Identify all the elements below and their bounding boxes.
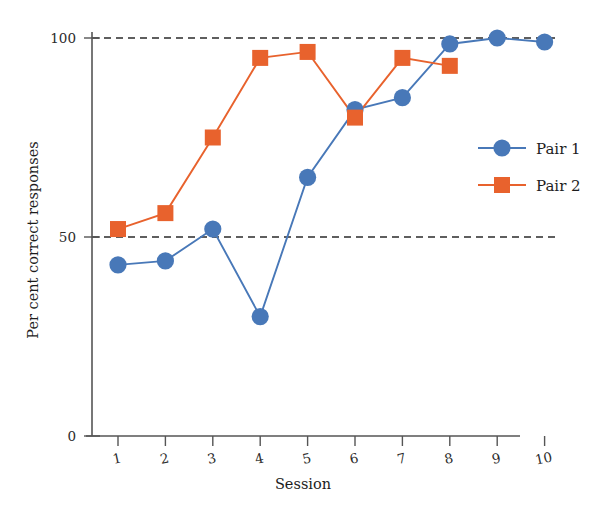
marker-pair-1-session-4 [252,308,269,325]
legend-entry-pair-1[interactable]: Pair 1 [478,139,581,157]
x-tick-label-4: 4 [253,449,265,466]
x-tick-label-2: 2 [158,449,170,466]
y-axis-title: Per cent correct responses [25,141,41,338]
series-markers [109,29,553,325]
marker-pair-1-session-1 [109,256,126,273]
y-tick-label-50: 50 [59,229,76,245]
legend-entry-pair-2[interactable]: Pair 2 [478,177,581,195]
x-tick-label-3: 3 [206,449,218,466]
legend-marker-pair-2 [494,177,510,193]
x-tick-label-6: 6 [348,449,360,466]
legend-label-pair-2: Pair 2 [536,177,581,195]
marker-pair-2-session-7 [394,50,410,66]
marker-pair-2-session-5 [300,44,316,60]
marker-pair-1-session-8 [441,35,458,52]
line-chart: 050100 12345678910 Session Per cent corr… [0,0,604,515]
x-tick-label-8: 8 [443,449,455,466]
marker-pair-2-session-6 [347,110,363,126]
x-axis-title: Session [275,476,331,492]
series-lines [118,38,545,317]
series-line-pair-1 [118,38,545,317]
x-axis-ticks: 12345678910 [111,436,554,468]
marker-pair-1-session-10 [536,33,553,50]
x-tick-label-1: 1 [111,449,123,466]
chart-page: 050100 12345678910 Session Per cent corr… [0,0,604,515]
marker-pair-1-session-3 [204,220,221,237]
x-tick-label-5: 5 [301,449,313,466]
y-tick-label-100: 100 [50,30,76,46]
marker-pair-1-session-7 [394,89,411,106]
legend: Pair 1Pair 2 [478,139,581,194]
x-tick-label-7: 7 [395,449,407,466]
marker-pair-1-session-5 [299,169,316,186]
marker-pair-1-session-9 [489,29,506,46]
marker-pair-2-session-8 [442,58,458,74]
marker-pair-1-session-2 [157,252,174,269]
marker-pair-2-session-2 [157,205,173,221]
x-tick-label-10: 10 [533,448,553,467]
marker-pair-2-session-3 [205,130,221,146]
legend-marker-pair-1 [493,139,510,156]
series-line-pair-2 [118,52,450,229]
marker-pair-2-session-1 [110,221,126,237]
legend-label-pair-1: Pair 1 [536,140,581,158]
axes [86,32,520,436]
marker-pair-2-session-4 [252,50,268,66]
x-tick-label-9: 9 [490,449,502,466]
y-tick-label-0: 0 [67,428,76,444]
